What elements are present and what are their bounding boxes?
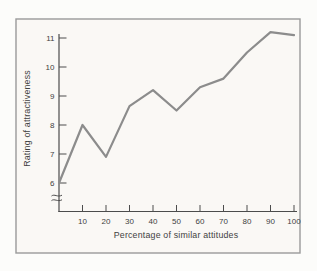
x-tick-label: 50 — [172, 217, 181, 226]
x-tick-label: 20 — [102, 217, 111, 226]
x-tick-label: 90 — [266, 217, 275, 226]
y-tick-label: 10 — [46, 63, 55, 72]
y-tick-label: 11 — [46, 34, 55, 43]
attraction-similarity-chart: 67891011 102030405060708090100 Percentag… — [0, 0, 317, 271]
x-tick-label: 40 — [149, 217, 158, 226]
y-axis-title: Rating of attractiveness — [22, 70, 32, 167]
y-tick-label: 7 — [50, 150, 55, 159]
y-tick-label: 6 — [50, 179, 55, 188]
textbook-figure: 67891011 102030405060708090100 Percentag… — [0, 0, 317, 271]
y-tick-label: 8 — [50, 121, 55, 130]
x-tick-label: 70 — [219, 217, 228, 226]
x-tick-label: 10 — [78, 217, 87, 226]
x-axis-title: Percentage of similar attitudes — [114, 230, 239, 240]
x-tick-label: 100 — [287, 217, 301, 226]
x-tick-label: 30 — [125, 217, 134, 226]
x-tick-label: 80 — [243, 217, 252, 226]
y-tick-label: 9 — [50, 92, 55, 101]
x-tick-label: 60 — [196, 217, 205, 226]
